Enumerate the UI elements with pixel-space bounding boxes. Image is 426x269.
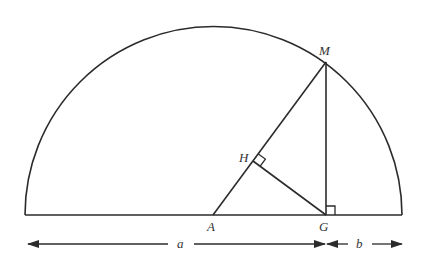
- segment-AM: [213, 62, 326, 215]
- label-A: A: [206, 219, 215, 234]
- geometry-diagram: M H A G a b: [0, 0, 426, 269]
- right-angle-mark-G: [326, 206, 335, 215]
- diagram-svg: M H A G a b: [0, 0, 426, 269]
- label-M: M: [318, 43, 331, 58]
- semicircle-arc: [25, 26, 402, 215]
- segment-HG: [253, 161, 326, 215]
- label-H: H: [238, 150, 249, 165]
- dimension-label-a: a: [177, 236, 184, 251]
- dimension-label-b: b: [356, 236, 363, 251]
- label-G: G: [319, 219, 329, 234]
- right-angle-mark-H: [258, 154, 265, 166]
